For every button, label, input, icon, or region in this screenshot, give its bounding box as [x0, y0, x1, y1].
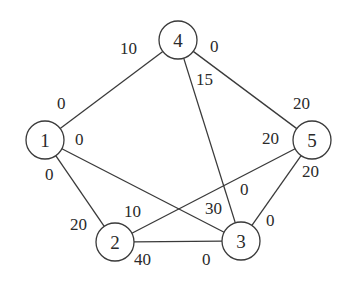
graph-diagram: 12345 1000201500300201020400200 — [0, 0, 350, 288]
edge-weight-label: 0 — [202, 250, 211, 269]
edge-4-5 — [193, 51, 297, 128]
edge-weight-label: 20 — [293, 94, 310, 113]
node-label: 3 — [236, 231, 246, 252]
edge-weight-label: 20 — [302, 162, 319, 181]
edge-weight-label: 0 — [266, 211, 275, 230]
node-label: 2 — [110, 232, 120, 253]
node-1: 1 — [26, 121, 64, 159]
edge-weight-label: 40 — [134, 250, 151, 269]
node-label: 4 — [173, 30, 183, 51]
edge-weight-label: 30 — [205, 199, 222, 218]
edge-weight-label: 0 — [45, 165, 54, 184]
node-label: 1 — [40, 130, 50, 151]
edge-weight-label: 0 — [57, 94, 66, 113]
edge-5-3 — [252, 156, 301, 226]
node-5: 5 — [293, 121, 331, 159]
node-label: 5 — [307, 130, 317, 151]
edge-2-3 — [134, 241, 222, 242]
edge-weight-label: 10 — [124, 202, 141, 221]
edge-weight-label: 10 — [120, 39, 137, 58]
edge-1-4 — [60, 51, 163, 128]
node-2: 2 — [96, 223, 134, 261]
graph-svg: 12345 1000201500300201020400200 — [0, 0, 350, 288]
edge-labels-layer: 1000201500300201020400200 — [45, 37, 319, 269]
edge-weight-label: 0 — [240, 180, 249, 199]
node-3: 3 — [222, 222, 260, 260]
node-4: 4 — [159, 21, 197, 59]
edge-weight-label: 20 — [262, 129, 279, 148]
edge-weight-label: 0 — [210, 37, 219, 56]
edge-weight-label: 15 — [196, 70, 213, 89]
edge-weight-label: 0 — [75, 130, 84, 149]
edge-weight-label: 20 — [70, 215, 87, 234]
